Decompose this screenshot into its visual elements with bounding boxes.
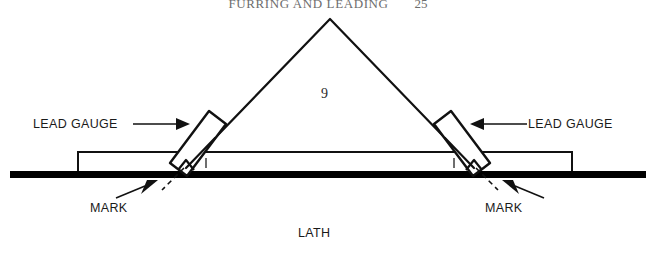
label-mark-left: MARK (90, 201, 128, 215)
mark-right-leader-line (515, 186, 544, 198)
lead-gauge-left-leader (133, 118, 190, 130)
triangle-legs (186, 19, 474, 168)
label-apex-value: 9 (321, 86, 328, 102)
label-lead-gauge-right: LEAD GAUGE (528, 117, 613, 131)
mark-right-leader (502, 180, 544, 198)
right-leader-arrowhead (470, 118, 484, 130)
left-leader-arrowhead (176, 118, 190, 130)
mark-left-leader-line (116, 186, 145, 198)
label-mark-right: MARK (485, 201, 523, 215)
diagram-page: FURRING AND LEADING25 (0, 0, 656, 258)
lead-gauge-right-leader (470, 118, 527, 130)
label-lath: LATH (298, 226, 330, 240)
string-triangle (186, 19, 474, 168)
baseline-bar (10, 171, 646, 178)
label-lead-gauge-left: LEAD GAUGE (33, 117, 118, 131)
lath-board (78, 152, 572, 172)
mark-left-leader (116, 180, 158, 198)
